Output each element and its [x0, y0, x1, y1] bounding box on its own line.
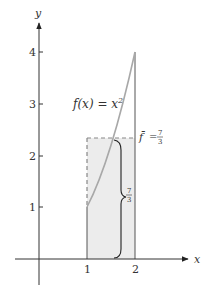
function-label: f(x) = x2 — [72, 96, 123, 111]
brace-label: 7 3 — [126, 187, 132, 204]
y-tick-label-1: 1 — [29, 201, 36, 214]
x-axis-label: x — [194, 253, 201, 266]
average-value-diagram: 4 3 2 1 1 2 y x f(x) = x2 f̄ = 7 3 7 3 — [0, 0, 214, 292]
x-tick-label-1: 1 — [84, 263, 91, 276]
svg-text:3: 3 — [127, 196, 131, 204]
y-axis-label: y — [34, 7, 42, 20]
svg-text:f̄: f̄ — [138, 131, 146, 144]
y-tick-label-4: 4 — [29, 46, 36, 59]
x-tick-label-2: 2 — [132, 263, 139, 276]
y-tick-label-3: 3 — [29, 98, 36, 111]
average-value-label: f̄ = 7 3 — [138, 129, 163, 146]
svg-text:7: 7 — [158, 129, 162, 137]
svg-text:7: 7 — [127, 187, 131, 195]
y-tick-label-2: 2 — [29, 150, 36, 163]
y-ticks — [39, 52, 43, 207]
svg-text:3: 3 — [158, 138, 162, 146]
svg-text:=: = — [149, 131, 157, 142]
